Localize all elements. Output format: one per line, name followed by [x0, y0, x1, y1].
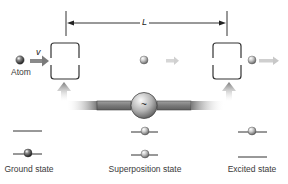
superposition-upper-atom-icon	[141, 127, 149, 135]
atom-icon	[16, 56, 24, 64]
atom-exit-icon	[248, 56, 256, 64]
velocity-label: v	[36, 48, 41, 57]
ground-state-label: Ground state	[4, 165, 53, 174]
cavity-right-icon	[213, 43, 241, 79]
excited-state-levels	[238, 127, 267, 157]
flow-arrow-exit-icon	[259, 57, 279, 66]
excited-state-atom-icon	[248, 127, 256, 135]
ground-state-levels	[13, 131, 42, 157]
superposition-lower-atom-icon	[141, 150, 149, 158]
ramsey-interferometer-diagram: L v Atom ~ Ground state Superposition st…	[0, 0, 288, 184]
field-arrow-left-icon	[57, 82, 71, 101]
distance-label: L	[142, 18, 147, 27]
flow-arrow-middle-icon	[166, 57, 179, 66]
velocity-arrow-icon	[30, 56, 49, 67]
ground-state-atom-icon	[24, 149, 32, 157]
oscillator-symbol: ~	[141, 100, 147, 110]
superposition-state-levels	[131, 127, 158, 158]
atom-label: Atom	[11, 68, 31, 77]
field-arrow-right-icon	[222, 82, 236, 101]
atom-middle-icon	[140, 56, 148, 64]
superposition-state-label: Superposition state	[109, 165, 182, 174]
cavity-left-icon	[51, 43, 79, 79]
excited-state-label: Excited state	[228, 165, 277, 174]
